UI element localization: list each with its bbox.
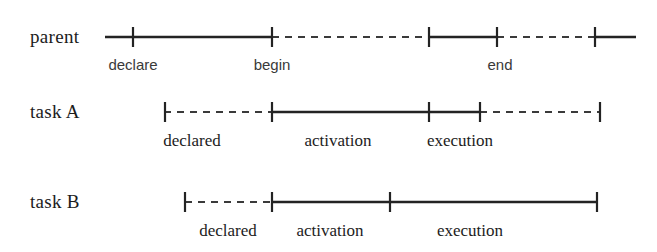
caption-taska-execution: execution (427, 131, 494, 150)
caption-taskb-execution: execution (437, 221, 504, 240)
timeline-diagram: parentdeclarebeginendtask Adeclaredactiv… (0, 0, 657, 252)
timeline-rows: parentdeclarebeginendtask Adeclaredactiv… (30, 26, 636, 240)
caption-taskb-declared: declared (199, 221, 257, 240)
timeline-row-task-b: task Bdeclaredactivationexecution (30, 191, 597, 240)
row-label-task-b: task B (30, 191, 80, 212)
row-label-parent: parent (30, 26, 80, 47)
timeline-canvas: parentdeclarebeginendtask Adeclaredactiv… (0, 0, 657, 252)
row-label-task-a: task A (30, 101, 80, 122)
timeline-row-task-a: task Adeclaredactivationexecution (30, 101, 600, 150)
caption-begin: begin (254, 56, 291, 73)
caption-taska-activation: activation (304, 131, 372, 150)
timeline-row-parent: parentdeclarebeginend (30, 26, 636, 73)
caption-end: end (487, 56, 512, 73)
caption-declare: declare (108, 56, 157, 73)
caption-taska-declared: declared (163, 131, 221, 150)
caption-taskb-activation: activation (296, 221, 364, 240)
